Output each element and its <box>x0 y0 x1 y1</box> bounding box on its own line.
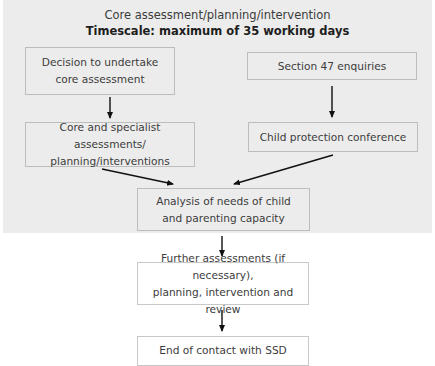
arrow-cpc-to-analysis <box>234 155 333 184</box>
arrow-core-to-analysis <box>102 169 173 184</box>
